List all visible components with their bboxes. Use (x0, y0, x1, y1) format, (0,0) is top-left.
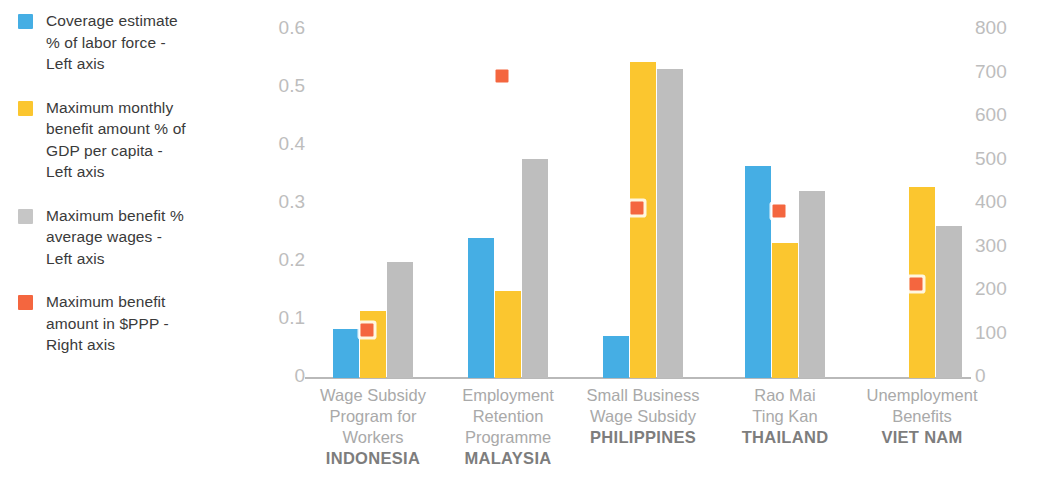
bar[interactable] (745, 166, 771, 378)
right-axis-tick: 400 (975, 191, 1042, 213)
program-name-line: Rao Mai (754, 386, 815, 404)
chart-legend: Coverage estimate% of labor force - Left… (18, 10, 258, 378)
program-name-line: Small Business (587, 386, 700, 404)
category-label: UnemploymentBenefitsVIET NAM (847, 385, 997, 448)
bar[interactable] (603, 336, 629, 378)
legend-item-label: Maximum monthlybenefit amount % ofGDP pe… (46, 97, 186, 183)
legend-swatch-icon (18, 101, 33, 116)
bar-group (882, 30, 962, 378)
program-name-line: Ting Kan (752, 407, 817, 425)
legend-swatch-icon (18, 209, 33, 224)
bar-group (333, 30, 413, 378)
legend-item-coverage-estimate[interactable]: Coverage estimate% of labor force - Left… (18, 10, 258, 75)
left-axis-tick: 0.2 (245, 249, 305, 271)
bar[interactable] (495, 291, 521, 378)
right-axis-tick: 600 (975, 104, 1042, 126)
legend-swatch-icon (18, 14, 33, 29)
bar[interactable] (468, 238, 494, 378)
program-name-line: Unemployment (867, 386, 978, 404)
legend-item-max-benefit-ppp[interactable]: Maximum benefitamount in $PPP -Right axi… (18, 291, 258, 356)
category-label: Wage SubsidyProgram forWorkersINDONESIA (298, 385, 448, 469)
right-axis-tick: 100 (975, 322, 1042, 344)
legend-item-max-monthly-benefit[interactable]: Maximum monthlybenefit amount % ofGDP pe… (18, 97, 258, 183)
right-axis-tick: 700 (975, 61, 1042, 83)
scatter-marker[interactable] (772, 204, 785, 217)
country-name: MALAYSIA (433, 448, 583, 469)
left-axis-tick: 0.6 (245, 17, 305, 39)
scatter-marker[interactable] (909, 278, 922, 291)
program-name-line: Wage Subsidy (590, 407, 696, 425)
chart-root: Coverage estimate% of labor force - Left… (0, 0, 1042, 485)
bar[interactable] (387, 262, 413, 378)
bar[interactable] (522, 159, 548, 378)
bar-group (468, 30, 548, 378)
bar[interactable] (936, 226, 962, 378)
scatter-marker[interactable] (360, 324, 373, 337)
program-name-line: Wage Subsidy (320, 386, 426, 404)
program-name-line: Benefits (892, 407, 952, 425)
category-label: Small BusinessWage SubsidyPHILIPPINES (568, 385, 718, 448)
country-name: VIET NAM (847, 427, 997, 448)
bar[interactable] (657, 69, 683, 378)
legend-item-label: Coverage estimate% of labor force - Left… (46, 10, 178, 75)
left-axis-tick: 0.5 (245, 75, 305, 97)
bar-group (603, 30, 683, 378)
program-name-line: Retention (473, 407, 544, 425)
bar[interactable] (360, 311, 386, 378)
scatter-marker[interactable] (630, 202, 643, 215)
bar[interactable] (799, 191, 825, 378)
bar[interactable] (630, 62, 656, 378)
category-label: EmploymentRetentionProgrammeMALAYSIA (433, 385, 583, 469)
right-axis-tick: 300 (975, 235, 1042, 257)
category-label: Rao MaiTing KanTHAILAND (710, 385, 860, 448)
bar-group (745, 30, 825, 378)
right-axis-tick: 0 (975, 365, 1042, 387)
right-axis-tick: 500 (975, 148, 1042, 170)
legend-swatch-icon (18, 295, 33, 310)
country-name: INDONESIA (298, 448, 448, 469)
bar[interactable] (772, 243, 798, 378)
legend-item-max-benefit-wages[interactable]: Maximum benefit %average wages -Left axi… (18, 205, 258, 270)
left-axis-tick: 0.4 (245, 133, 305, 155)
scatter-marker[interactable] (495, 69, 508, 82)
left-axis-tick: 0 (245, 365, 305, 387)
country-name: PHILIPPINES (568, 427, 718, 448)
left-axis-tick: 0.3 (245, 191, 305, 213)
right-axis-tick: 800 (975, 17, 1042, 39)
right-axis-tick: 200 (975, 278, 1042, 300)
program-name-line: Employment (462, 386, 554, 404)
left-axis-tick: 0.1 (245, 307, 305, 329)
program-name-line: Program for (329, 407, 416, 425)
program-name-line: Programme (465, 428, 551, 446)
program-name-line: Workers (342, 428, 403, 446)
bar[interactable] (333, 329, 359, 378)
legend-item-label: Maximum benefit %average wages -Left axi… (46, 205, 184, 270)
legend-item-label: Maximum benefitamount in $PPP -Right axi… (46, 291, 169, 356)
plot-area (313, 30, 963, 378)
country-name: THAILAND (710, 427, 860, 448)
